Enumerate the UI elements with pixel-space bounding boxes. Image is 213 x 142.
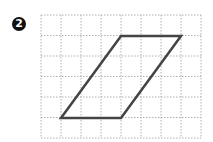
dotted-grid <box>41 15 201 138</box>
grid-figure <box>0 0 213 142</box>
